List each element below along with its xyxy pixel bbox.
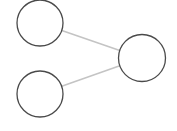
graph-diagram [0,0,177,131]
edge-top-left-to-right [62,31,120,51]
nodes [17,0,166,117]
node-top-left [17,0,63,46]
node-right [119,35,166,82]
node-bottom-left [17,71,63,117]
edge-bottom-left-to-right [62,66,120,87]
edges [62,31,120,87]
